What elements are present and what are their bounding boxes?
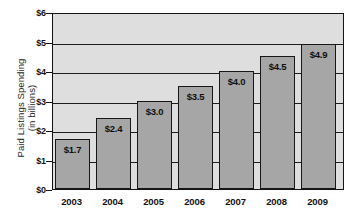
bar-chart: Paid Listings Spending (in billions) $1.… <box>0 0 353 218</box>
bar-value-2009: $4.9 <box>302 49 335 60</box>
bar-2008[interactable]: $4.5 <box>260 56 295 189</box>
x-tick-label-2003: 2003 <box>54 196 89 207</box>
bar-2003[interactable]: $1.7 <box>55 139 90 189</box>
y-axis-title-line-2: (in billions) <box>27 85 38 132</box>
bars-layer: $1.7 $2.4 $3.0 $3.5 $4.0 $4.5 $4.9 <box>53 14 343 189</box>
bar-value-2008: $4.5 <box>261 61 294 72</box>
bar-2005[interactable]: $3.0 <box>137 101 172 190</box>
y-tick-label-6: $6 <box>22 8 46 18</box>
plot-area: $1.7 $2.4 $3.0 $3.5 $4.0 $4.5 $4.9 <box>52 13 344 190</box>
x-tick-label-2007: 2007 <box>218 196 253 207</box>
x-tick-label-2009: 2009 <box>300 196 335 207</box>
y-axis-title: Paid Listings Spending (in billions) <box>12 20 42 196</box>
bar-value-2004: $2.4 <box>97 123 130 134</box>
bar-value-2007: $4.0 <box>220 76 253 87</box>
bar-value-2006: $3.5 <box>179 91 212 102</box>
bar-2006[interactable]: $3.5 <box>178 86 213 189</box>
x-tick-label-2004: 2004 <box>95 196 130 207</box>
y-tick-mark-0 <box>46 190 52 191</box>
bar-2007[interactable]: $4.0 <box>219 71 254 189</box>
x-tick-label-2005: 2005 <box>136 196 171 207</box>
x-tick-label-2006: 2006 <box>177 196 212 207</box>
bar-2009[interactable]: $4.9 <box>301 44 336 189</box>
bar-value-2005: $3.0 <box>138 106 171 117</box>
x-tick-label-2008: 2008 <box>259 196 294 207</box>
bar-2004[interactable]: $2.4 <box>96 118 131 189</box>
bar-value-2003: $1.7 <box>56 144 89 155</box>
